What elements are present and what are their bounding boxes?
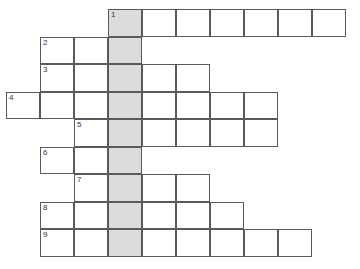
crossword-cell[interactable]	[176, 9, 210, 37]
crossword-cell[interactable]	[74, 229, 108, 257]
cell-number-7: 7	[77, 175, 81, 185]
crossword-cell[interactable]	[210, 229, 244, 257]
crossword-cell[interactable]	[108, 37, 142, 65]
crossword-cell[interactable]	[210, 119, 244, 147]
crossword-cell[interactable]	[210, 92, 244, 120]
crossword-cell[interactable]	[176, 229, 210, 257]
crossword-cell[interactable]	[142, 202, 176, 230]
crossword-cell[interactable]	[244, 9, 278, 37]
crossword-cell[interactable]	[74, 147, 108, 175]
crossword-cell[interactable]	[176, 174, 210, 202]
crossword-cell-start-1[interactable]: 1	[108, 9, 142, 37]
crossword-cell[interactable]	[176, 119, 210, 147]
crossword-cell[interactable]	[108, 119, 142, 147]
crossword-cell[interactable]	[244, 92, 278, 120]
crossword-cell[interactable]	[108, 147, 142, 175]
cell-number-6: 6	[43, 148, 47, 158]
crossword-cell[interactable]	[312, 9, 346, 37]
crossword-cell-start-8[interactable]: 8	[40, 202, 74, 230]
cell-number-5: 5	[77, 120, 81, 130]
crossword-cell[interactable]	[108, 202, 142, 230]
crossword-cell[interactable]	[142, 229, 176, 257]
cell-number-8: 8	[43, 203, 47, 213]
crossword-cell-start-9[interactable]: 9	[40, 229, 74, 257]
crossword-cell-start-3[interactable]: 3	[40, 64, 74, 92]
crossword-cell[interactable]	[74, 64, 108, 92]
crossword-cell[interactable]	[108, 92, 142, 120]
crossword-cell[interactable]	[176, 64, 210, 92]
cell-number-4: 4	[9, 93, 13, 103]
crossword-cell[interactable]	[108, 229, 142, 257]
crossword-grid: 123456789	[0, 0, 360, 269]
crossword-cell-start-4[interactable]: 4	[6, 92, 40, 120]
crossword-cell[interactable]	[176, 92, 210, 120]
crossword-cell[interactable]	[176, 202, 210, 230]
crossword-cell[interactable]	[210, 202, 244, 230]
crossword-cell[interactable]	[142, 119, 176, 147]
cell-number-3: 3	[43, 65, 47, 75]
cell-number-2: 2	[43, 38, 47, 48]
crossword-cell[interactable]	[40, 92, 74, 120]
crossword-cell-start-6[interactable]: 6	[40, 147, 74, 175]
crossword-cell[interactable]	[74, 202, 108, 230]
crossword-cell[interactable]	[244, 229, 278, 257]
crossword-cell[interactable]	[278, 229, 312, 257]
crossword-cell[interactable]	[108, 174, 142, 202]
crossword-cell-start-5[interactable]: 5	[74, 119, 108, 147]
crossword-cell[interactable]	[278, 9, 312, 37]
crossword-cell[interactable]	[210, 9, 244, 37]
crossword-cell-start-7[interactable]: 7	[74, 174, 108, 202]
crossword-cell[interactable]	[142, 9, 176, 37]
crossword-cell[interactable]	[142, 174, 176, 202]
crossword-cell[interactable]	[74, 37, 108, 65]
cell-number-9: 9	[43, 230, 47, 240]
crossword-cell[interactable]	[74, 92, 108, 120]
crossword-cell-start-2[interactable]: 2	[40, 37, 74, 65]
crossword-cell[interactable]	[142, 92, 176, 120]
crossword-cell[interactable]	[142, 64, 176, 92]
crossword-cell[interactable]	[108, 64, 142, 92]
crossword-cell[interactable]	[244, 119, 278, 147]
cell-number-1: 1	[111, 10, 115, 20]
